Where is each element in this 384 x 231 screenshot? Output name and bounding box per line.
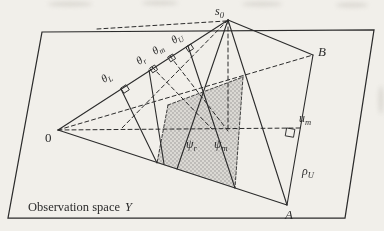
label-A: A: [284, 207, 293, 222]
label-origin: 0: [45, 130, 52, 145]
caption-observation-space: Observation spaceY: [28, 200, 134, 214]
label-B: B: [318, 44, 326, 59]
figure-observation-space: s0 0 B A um ρU θL θr θm θU ψr ψm Observa…: [0, 0, 384, 231]
